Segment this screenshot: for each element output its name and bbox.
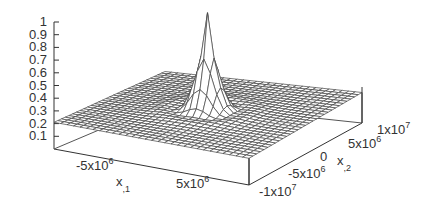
surface-plot: 0.10.20.30.40.50.60.70.80.91 -5x106 5x10… — [0, 0, 431, 200]
y-tick-1e7: 1x107 — [377, 120, 410, 137]
y-tick-neg5e6: -5x106 — [288, 164, 326, 181]
x-axis-labels: -5x106 5x106 x,1 — [76, 156, 209, 194]
y-tick-0: 0 — [320, 149, 327, 164]
y-tick-neg1e7: -1x107 — [259, 182, 297, 199]
x-axis-label: x,1 — [116, 174, 130, 194]
x-tick-5e6: 5x106 — [176, 174, 209, 191]
x-tick-neg5e6: -5x106 — [76, 156, 114, 173]
y-axis-label: x,2 — [337, 153, 351, 173]
z-tick-label: 1 — [40, 14, 47, 29]
